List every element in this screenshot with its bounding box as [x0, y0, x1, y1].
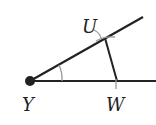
label-u: U: [82, 16, 98, 37]
angle-arc-y: [59, 65, 62, 81]
segment-uw: [105, 38, 117, 81]
label-w: W: [106, 94, 126, 115]
label-y: Y: [22, 94, 36, 115]
angle-diagram: U Y W: [0, 0, 156, 125]
vertex-dot-y: [25, 76, 35, 86]
